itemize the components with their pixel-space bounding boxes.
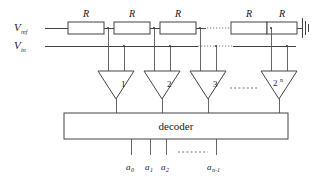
comparator-2: 2 (144, 71, 180, 113)
output-label-a1: a 1 (145, 162, 153, 173)
ground-symbol (297, 18, 308, 38)
resistor-5-label: R (278, 8, 285, 19)
decoder-block: decoder (64, 113, 288, 139)
resistor-2-label: R (128, 8, 135, 19)
resistor-3-label: R (174, 8, 181, 19)
resistor-3: R (160, 8, 196, 34)
vin-taps (124, 46, 287, 71)
a2-subscript: 2 (166, 167, 169, 173)
comparator-3: 3 (190, 71, 226, 113)
resistor-4: R (231, 8, 267, 34)
resistor-5: R (267, 8, 297, 34)
vin-subscript: in (21, 47, 26, 53)
comparator-1-label: 1 (121, 79, 126, 89)
comparator-last-exponent: n (280, 77, 283, 83)
figure-canvas: R R R R R (0, 0, 318, 177)
resistor-1-label: R (82, 8, 89, 19)
output-label-an1: a n-1 (207, 162, 220, 173)
output-label-a0: a 0 (126, 162, 134, 173)
resistor-2: R (114, 8, 150, 34)
a1-subscript: 1 (150, 167, 153, 173)
resistor-4-label: R (245, 8, 252, 19)
vin-label: V in (14, 39, 26, 53)
vref-subscript: ref (21, 29, 29, 35)
a0-subscript: 0 (131, 167, 134, 173)
output-label-a2: a 2 (161, 162, 169, 173)
resistor-1: R (68, 8, 104, 34)
flash-adc-schematic: R R R R R (0, 0, 318, 177)
comparator-1: 1 (98, 71, 134, 113)
an1-subscript: n-1 (212, 167, 220, 173)
comparator-2-label: 2 (167, 79, 172, 89)
comparator-last-label: 2 (273, 78, 278, 88)
comparator-last: 2 n (261, 71, 297, 113)
decoder-output-stems (131, 139, 216, 155)
vref-label: V ref (14, 21, 29, 35)
decoder-label: decoder (159, 120, 194, 132)
comparator-3-label: 3 (213, 79, 218, 89)
